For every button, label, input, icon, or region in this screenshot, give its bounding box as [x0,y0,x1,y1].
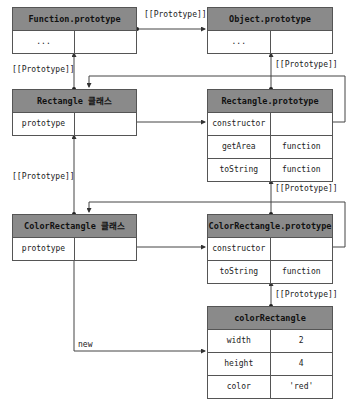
box-row: constructor [208,113,332,136]
prototype-link-label: [[Prototype]] [12,65,75,74]
box-title: ColorRectangle.prototype [208,215,332,238]
row-key: width [208,330,271,352]
box-title: ColorRectangle 클래스 [13,215,136,238]
row-value [75,31,136,53]
row-value [271,31,333,53]
row-key: prototype [13,113,75,135]
rectangle-prototype-box: Rectangle.prototype constructor getArea … [207,89,333,182]
prototype-link-label: [[Prototype]] [12,172,75,181]
box-row: color 'red' [208,376,332,398]
colorrectangle-class-box: ColorRectangle 클래스 prototype [12,214,137,261]
row-key: prototype [13,238,75,260]
row-value [75,238,136,260]
function-prototype-box: Function.prototype ... [12,7,137,54]
new-label: new [78,340,92,349]
row-key: getArea [208,136,271,158]
row-key: color [208,376,271,398]
row-value [271,238,333,260]
row-key: toString [208,159,271,181]
box-row: getArea function [208,136,332,159]
row-key: constructor [208,113,271,135]
prototype-link-label: [[Prototype]] [275,60,338,69]
row-key: height [208,353,271,375]
box-row: prototype [13,113,136,135]
box-row: height 4 [208,353,332,376]
prototype-link-label: [[Prototype]] [144,10,207,19]
colorrectangle-prototype-box: ColorRectangle.prototype constructor toS… [207,214,333,284]
box-row: toString function [208,261,332,283]
box-row: ... [13,31,136,53]
box-title: colorRectangle [208,307,332,330]
row-key: constructor [208,238,271,260]
row-value: function [271,136,333,158]
box-row: constructor [208,238,332,261]
row-key: ... [208,31,271,53]
row-value [271,113,333,135]
box-title: Object.prototype [208,8,332,31]
prototype-link-label: [[Prototype]] [275,290,338,299]
row-value: function [271,159,333,181]
row-value: function [271,261,333,283]
object-prototype-box: Object.prototype ... [207,7,333,54]
colorrectangle-instance-box: colorRectangle width 2 height 4 color 'r… [207,306,333,399]
box-row: prototype [13,238,136,260]
row-value: 4 [271,353,333,375]
box-title: Rectangle 클래스 [13,90,136,113]
row-value: 'red' [271,376,333,398]
row-value [75,113,136,135]
box-row: toString function [208,159,332,181]
row-value: 2 [271,330,333,352]
row-key: ... [13,31,75,53]
box-title: Function.prototype [13,8,136,31]
box-row: ... [208,31,332,53]
box-row: width 2 [208,330,332,353]
box-title: Rectangle.prototype [208,90,332,113]
prototype-link-label: [[Prototype]] [275,184,338,193]
row-key: toString [208,261,271,283]
rectangle-class-box: Rectangle 클래스 prototype [12,89,137,136]
